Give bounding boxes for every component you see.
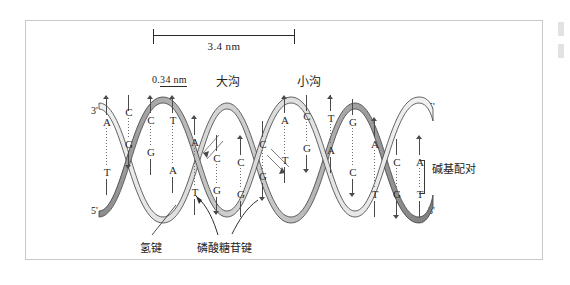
hydrogen-bond-annotation: 氢键	[140, 239, 162, 255]
base-letter-bottom: A	[166, 165, 180, 176]
base-pair-bracket	[419, 160, 425, 194]
strand-direction-arrowhead	[327, 95, 333, 99]
base-letter-bottom: G	[256, 171, 270, 182]
base-pair-column: CG	[390, 95, 404, 225]
backbone-stem-lower	[172, 177, 173, 193]
base-letter-bottom: A	[324, 145, 338, 156]
backbone-stem-lower	[284, 167, 285, 183]
hydrogen-bond-dots	[194, 148, 195, 187]
base-letter-top: C	[210, 153, 224, 164]
backbone-stem-lower	[374, 201, 375, 217]
rise-prefix: 0.	[152, 74, 160, 85]
base-letter-top: A	[368, 139, 382, 150]
base-letter-bottom: T	[100, 167, 114, 178]
backbone-stem-upper	[352, 99, 353, 115]
strand-direction-arrowhead	[259, 197, 265, 201]
strand-direction-arrowhead	[371, 117, 377, 121]
strand-direction-arrowhead	[303, 169, 309, 173]
strand-direction-arrowhead	[169, 95, 175, 99]
base-letter-top: A	[100, 117, 114, 128]
base-letter-top: G	[346, 117, 360, 128]
base-letter-bottom: T	[188, 187, 202, 198]
backbone-stem-lower	[419, 201, 420, 217]
base-letter-top: C	[256, 139, 270, 150]
base-pair-column: CG	[234, 95, 248, 225]
base-pair-column: AT	[368, 95, 382, 225]
base-letter-top: C	[144, 115, 158, 126]
backbone-stem-upper	[194, 119, 195, 135]
base-pair-column: CG	[122, 95, 136, 225]
rise-underlined: 34 nm	[160, 74, 187, 87]
base-letter-bottom: G	[234, 189, 248, 200]
backbone-stem-upper	[106, 99, 107, 115]
base-letter-top: C	[234, 157, 248, 168]
backbone-stem-upper	[172, 97, 173, 113]
hydrogen-bond-dots	[150, 126, 151, 147]
base-letter-bottom: G	[390, 189, 404, 200]
base-pair-column: AT	[278, 95, 292, 225]
base-letter-bottom: T	[278, 155, 292, 166]
scale-label-3-4nm: 3.4 nm	[153, 40, 295, 52]
backbone-stem-lower	[240, 201, 241, 217]
base-pair-column: GC	[346, 95, 360, 225]
hydrogen-bond-dots	[374, 150, 375, 189]
hydrogen-bond-dots	[172, 126, 173, 165]
base-pair-annotation: 碱基配对	[432, 160, 476, 176]
strand-direction-arrowhead	[237, 135, 243, 139]
base-letter-top: A	[188, 137, 202, 148]
strand-direction-arrowhead	[147, 95, 153, 99]
strand-direction-arrowhead	[125, 165, 131, 169]
backbone-stem-upper	[262, 121, 263, 137]
hydrogen-bond-dots	[330, 124, 331, 145]
hydrogen-bond-dots	[396, 168, 397, 189]
phosphodiester-bond-annotation: 磷酸糖苷键	[197, 239, 252, 255]
backbone-stem-upper	[216, 135, 217, 151]
backbone-stem-upper	[374, 121, 375, 137]
major-groove-label: 大沟	[216, 72, 240, 89]
backbone-stem-lower	[194, 199, 195, 215]
base-pair-column: CG	[256, 95, 270, 225]
hydrogen-bond-dots	[240, 168, 241, 189]
base-pair-column: CG	[300, 95, 314, 225]
backbone-stem-upper	[419, 139, 420, 155]
minor-groove-label: 小沟	[297, 72, 321, 89]
base-letter-bottom: C	[346, 167, 360, 178]
base-pair-column: TA	[324, 95, 338, 225]
strand-direction-arrowhead	[281, 95, 287, 99]
hydrogen-bond-dots	[306, 122, 307, 143]
strand-direction-arrowhead	[393, 215, 399, 219]
backbone-stem-upper	[306, 95, 307, 111]
scale-label-0-34nm: 0.34 nm	[152, 74, 187, 85]
base-letter-top: C	[300, 111, 314, 122]
base-letter-top: C	[390, 157, 404, 168]
base-letter-bottom: G	[300, 143, 314, 154]
figure-root: 3.4 nm 0.34 nm 大沟 小沟 3' 5' 5' 3'	[0, 0, 570, 285]
hydrogen-bond-dots	[128, 118, 129, 139]
base-letter-bottom: T	[368, 189, 382, 200]
backbone-stem-upper	[150, 97, 151, 113]
base-pair-column: CG	[210, 95, 224, 225]
backbone-stem-lower	[150, 159, 151, 175]
scale-bar-line	[153, 35, 295, 36]
base-pair-column: AT	[188, 95, 202, 225]
backbone-stem-upper	[284, 97, 285, 113]
backbone-stem-lower	[330, 157, 331, 173]
backbone-stem-upper	[240, 139, 241, 155]
hydrogen-bond-dots	[352, 128, 353, 167]
base-letter-top: T	[324, 113, 338, 124]
hydrogen-bond-dots	[262, 150, 263, 171]
hydrogen-bond-dots	[216, 164, 217, 185]
base-pair-column: CG	[144, 95, 158, 225]
edge-mark-lower	[558, 44, 564, 58]
backbone-stem-lower	[106, 179, 107, 195]
strand-direction-arrowhead	[213, 211, 219, 215]
base-letter-top: C	[122, 107, 136, 118]
hydrogen-bond-dots	[284, 126, 285, 155]
base-pair-column: AT	[100, 95, 114, 225]
base-letter-bottom: G	[210, 185, 224, 196]
strand-direction-arrowhead	[416, 135, 422, 139]
strand-direction-arrowhead	[103, 95, 109, 99]
base-letter-bottom: G	[122, 139, 136, 150]
base-letter-top: T	[166, 115, 180, 126]
edge-mark-upper	[558, 22, 564, 36]
